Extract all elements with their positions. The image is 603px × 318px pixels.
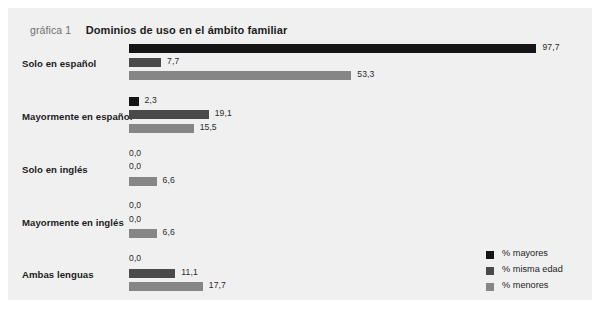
bar-group: Mayormente en inglés0,00,06,6 bbox=[8, 202, 592, 243]
bar-value-label: 15,5 bbox=[200, 122, 217, 132]
category-label: Solo en español bbox=[22, 58, 130, 69]
bar-segment[interactable] bbox=[129, 177, 157, 186]
legend-swatch-icon bbox=[486, 283, 494, 291]
bar-value-label: 7,7 bbox=[167, 56, 179, 66]
bar-value-label: 0,0 bbox=[129, 214, 141, 224]
bar-segment[interactable] bbox=[129, 282, 203, 291]
bar-segment[interactable] bbox=[129, 44, 536, 53]
bar-segment[interactable] bbox=[129, 229, 157, 238]
bar-segment[interactable] bbox=[129, 58, 161, 67]
bar-segment[interactable] bbox=[129, 110, 209, 119]
legend-item-label: % menores bbox=[502, 280, 548, 290]
bar-segment[interactable] bbox=[129, 97, 139, 106]
bar-segment[interactable] bbox=[129, 71, 351, 80]
legend-item: % mayores bbox=[486, 248, 586, 261]
bar-value-label: 0,0 bbox=[129, 253, 141, 263]
bar-value-label: 19,1 bbox=[215, 108, 232, 118]
category-label: Mayormente en español bbox=[22, 111, 130, 122]
legend-item-label: % misma edad bbox=[502, 264, 563, 274]
bar-segment[interactable] bbox=[129, 269, 175, 278]
chart-legend: % mayores % misma edad % menores bbox=[486, 248, 586, 296]
legend-item-label: % mayores bbox=[502, 248, 548, 258]
category-label: Solo en inglés bbox=[22, 164, 130, 175]
figure-panel: gráfica 1 Dominios de uso en el ámbito f… bbox=[8, 8, 592, 300]
legend-item: % misma edad bbox=[486, 264, 586, 277]
bar-value-label: 6,6 bbox=[163, 175, 175, 185]
bar-value-label: 97,7 bbox=[542, 42, 559, 52]
legend-swatch-icon bbox=[486, 251, 494, 259]
bar-value-label: 0,0 bbox=[129, 200, 141, 210]
bar-value-label: 17,7 bbox=[209, 280, 226, 290]
bar-value-label: 53,3 bbox=[357, 69, 374, 79]
bar-group: Solo en español97,77,753,3 bbox=[8, 44, 592, 85]
category-label: Mayormente en inglés bbox=[22, 217, 130, 228]
bar-value-label: 6,6 bbox=[163, 227, 175, 237]
bar-value-label: 0,0 bbox=[129, 148, 141, 158]
category-label: Ambas lenguas bbox=[22, 269, 130, 280]
bar-group: Solo en inglés0,00,06,6 bbox=[8, 150, 592, 191]
bar-value-label: 0,0 bbox=[129, 161, 141, 171]
bar-value-label: 2,3 bbox=[145, 95, 157, 105]
legend-item: % menores bbox=[486, 280, 586, 293]
bar-group: Mayormente en español2,319,115,5 bbox=[8, 97, 592, 138]
bar-value-label: 11,1 bbox=[181, 267, 198, 277]
legend-swatch-icon bbox=[486, 267, 494, 275]
bar-segment[interactable] bbox=[129, 124, 194, 133]
